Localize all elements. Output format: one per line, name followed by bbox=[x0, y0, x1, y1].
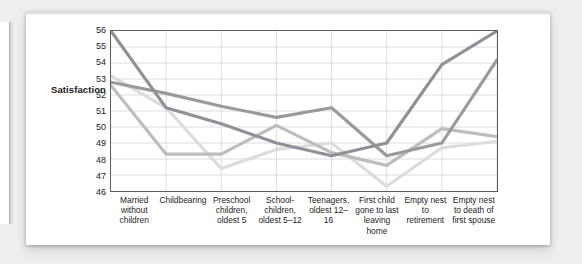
y-axis-tick-labels: 5655545352515049484746 bbox=[76, 30, 106, 192]
y-tick-label: 53 bbox=[76, 74, 106, 83]
x-tick-label: Childbearing bbox=[158, 195, 207, 245]
line-series bbox=[111, 85, 497, 165]
y-tick-label: 52 bbox=[76, 90, 106, 99]
y-tick-label: 48 bbox=[76, 155, 106, 164]
x-tick-label: Preschool children, oldest 5 bbox=[207, 195, 255, 245]
plot-area bbox=[110, 30, 498, 192]
x-tick-label: School-children, oldest 5–12 bbox=[256, 195, 304, 245]
x-tick-label: Married without children bbox=[110, 195, 158, 245]
x-tick-label: First child gone to last leaving home bbox=[353, 195, 401, 245]
figure-card: Satisfaction 5655545352515049484746 Marr… bbox=[26, 12, 550, 245]
y-tick-label: 50 bbox=[76, 123, 106, 132]
x-tick-label: Empty nest to death of first spouse bbox=[450, 195, 498, 245]
y-tick-label: 54 bbox=[76, 58, 106, 67]
y-tick-label: 55 bbox=[76, 42, 106, 51]
y-tick-label: 46 bbox=[76, 188, 106, 197]
y-tick-label: 56 bbox=[76, 26, 106, 35]
y-tick-label: 49 bbox=[76, 139, 106, 148]
plot-svg bbox=[111, 31, 497, 191]
line-chart: Satisfaction 5655545352515049484746 Marr… bbox=[26, 12, 550, 245]
y-tick-label: 51 bbox=[76, 107, 106, 116]
x-tick-label: Teenagers, oldest 12–16 bbox=[304, 195, 352, 245]
y-tick-label: 47 bbox=[76, 171, 106, 180]
x-axis-tick-labels: Married without childrenChildbearingPres… bbox=[110, 195, 498, 245]
adjacent-page-shadow bbox=[9, 22, 14, 224]
x-tick-label: Empty nest to retirement bbox=[401, 195, 449, 245]
figure-page: Satisfaction 5655545352515049484746 Marr… bbox=[0, 0, 582, 264]
